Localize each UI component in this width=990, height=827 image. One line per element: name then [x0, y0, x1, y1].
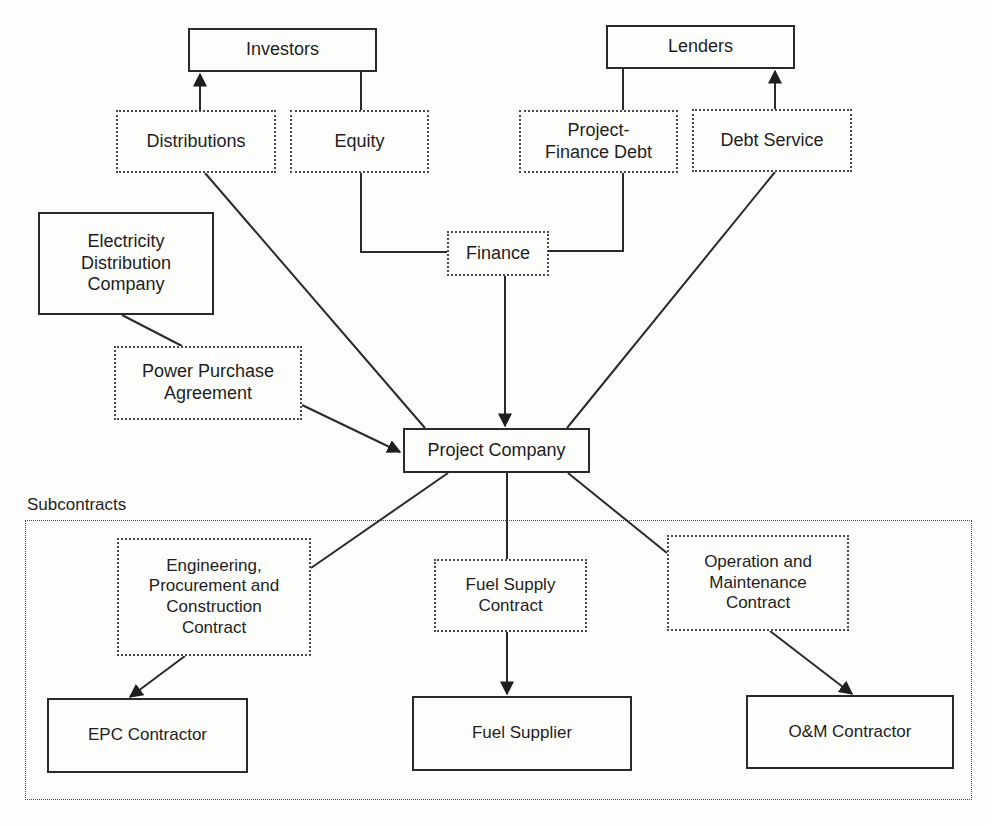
- node-fuel-supplier: Fuel Supplier: [412, 696, 632, 771]
- node-fuel-supply-contract: Fuel Supply Contract: [434, 559, 587, 632]
- node-om-contractor: O&M Contractor: [746, 695, 954, 769]
- node-power-purchase-agreement: Power Purchase Agreement: [114, 346, 302, 420]
- edge-edc-ppa: [122, 315, 182, 346]
- node-project-company: Project Company: [403, 428, 590, 473]
- edge-epc-epccontractor: [130, 656, 185, 697]
- node-electricity-distribution-company: Electricity Distribution Company: [38, 212, 214, 315]
- edge-projectcompany-debtservice: [567, 172, 775, 428]
- edge-projectcompany-epc: [311, 473, 448, 568]
- node-debt-service: Debt Service: [692, 109, 852, 172]
- edge-om-omcontractor: [770, 631, 852, 694]
- node-epc-contractor: EPC Contractor: [47, 698, 248, 773]
- edge-pfdebt-finance: [549, 173, 623, 251]
- node-epc-contract: Engineering, Procurement and Constructio…: [117, 538, 311, 656]
- edge-equity-finance: [361, 173, 447, 252]
- node-finance: Finance: [447, 231, 549, 276]
- node-om-contract: Operation and Maintenance Contract: [667, 535, 849, 631]
- node-distributions: Distributions: [116, 110, 276, 173]
- node-investors: Investors: [188, 28, 377, 72]
- edge-ppa-projectcompany: [302, 405, 400, 452]
- node-lenders: Lenders: [606, 25, 795, 69]
- node-equity: Equity: [290, 110, 429, 173]
- edge-projectcompany-om: [568, 473, 667, 553]
- node-project-finance-debt: Project- Finance Debt: [519, 110, 678, 173]
